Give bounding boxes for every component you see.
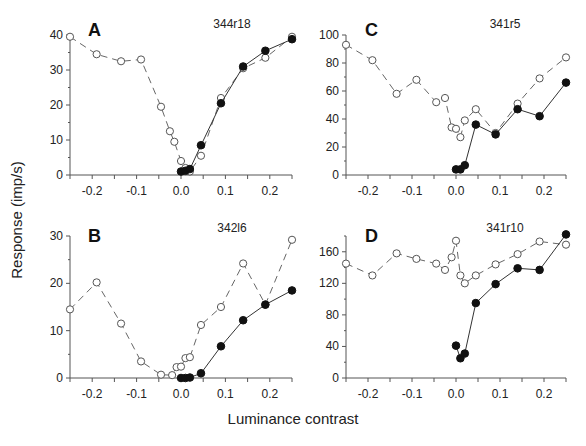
filled-circle-marker (472, 121, 480, 129)
y-tick-label: 10 (50, 133, 64, 147)
y-tick-label: 40 (326, 112, 340, 126)
open-circle-marker (197, 152, 204, 159)
panel-label: D (365, 226, 378, 246)
x-tick-label: 0.1 (492, 387, 509, 401)
x-tick-label: 0.1 (217, 184, 234, 198)
x-tick-label: -0.2 (82, 387, 103, 401)
open-circle-marker (457, 134, 464, 141)
open-circle-marker (217, 303, 224, 310)
panel-c: -0.2-0.10.00.10.2020406080100C341r5 (319, 17, 570, 198)
y-tick-label: 60 (326, 84, 340, 98)
y-tick-label: 30 (50, 63, 64, 77)
x-tick-label: 0.0 (448, 184, 465, 198)
y-tick-label: 10 (50, 324, 64, 338)
panel-label: A (88, 20, 101, 40)
open-circle-marker (514, 251, 521, 258)
open-circle-marker (369, 57, 376, 64)
open-circle-marker (452, 237, 459, 244)
open-circle-marker (433, 260, 440, 267)
filled-circle-marker (186, 165, 194, 173)
x-tick-label: -0.1 (126, 387, 147, 401)
open-circle-marker (536, 238, 543, 245)
open-circle-marker (137, 56, 144, 63)
x-tick-label: -0.1 (126, 184, 147, 198)
series-open-line (70, 240, 292, 375)
filled-circle-marker (197, 369, 205, 377)
series-open-line (346, 241, 566, 284)
x-tick-label: -0.2 (358, 184, 379, 198)
open-circle-marker (369, 272, 376, 279)
open-circle-marker (562, 54, 569, 61)
x-tick-label: 0.2 (536, 387, 553, 401)
filled-circle-marker (472, 299, 480, 307)
open-circle-marker (413, 255, 420, 262)
open-circle-marker (177, 157, 184, 164)
figure: -0.2-0.10.00.10.2010203040A344r18-0.2-0.… (0, 0, 586, 446)
open-circle-marker (288, 236, 295, 243)
open-circle-marker (562, 241, 569, 248)
filled-circle-marker (288, 35, 296, 43)
y-tick-label: 0 (56, 371, 63, 385)
open-circle-marker (457, 272, 464, 279)
filled-circle-marker (239, 316, 247, 324)
y-tick-label: 0 (332, 371, 339, 385)
x-tick-label: 0.0 (173, 184, 190, 198)
open-circle-marker (66, 33, 73, 40)
open-circle-marker (186, 354, 193, 361)
panel-title: 344r18 (213, 17, 251, 31)
y-tick-label: 20 (326, 140, 340, 154)
x-tick-label: -0.2 (358, 387, 379, 401)
x-axis-label: Luminance contrast (0, 410, 586, 427)
open-circle-marker (492, 261, 499, 268)
x-tick-label: -0.1 (402, 184, 423, 198)
filled-circle-marker (197, 141, 205, 149)
series-filled-line (181, 39, 292, 171)
x-tick-label: -0.1 (402, 387, 423, 401)
open-circle-marker (240, 260, 247, 267)
filled-circle-marker (461, 161, 469, 169)
open-circle-marker (536, 75, 543, 82)
filled-circle-marker (536, 266, 544, 274)
x-tick-label: 0.2 (536, 184, 553, 198)
filled-circle-marker (217, 99, 225, 107)
y-axis-label: Response (imp/s) (8, 161, 25, 279)
open-circle-marker (342, 260, 349, 267)
panel-a: -0.2-0.10.00.10.2010203040A344r18 (50, 17, 296, 198)
x-tick-label: 0.0 (448, 387, 465, 401)
filled-circle-marker (262, 301, 270, 309)
open-circle-marker (448, 254, 455, 261)
series-open-line (346, 45, 566, 137)
x-tick-label: -0.2 (82, 184, 103, 198)
panel-b: -0.2-0.10.00.10.20102030B342l6 (50, 221, 296, 401)
panel-title: 342l6 (217, 221, 247, 235)
y-tick-label: 160 (319, 245, 339, 259)
filled-circle-marker (262, 47, 270, 55)
open-circle-marker (166, 128, 173, 135)
figure-canvas: -0.2-0.10.00.10.2010203040A344r18-0.2-0.… (0, 0, 586, 446)
open-circle-marker (197, 321, 204, 328)
open-circle-marker (262, 54, 269, 61)
x-tick-label: 0.1 (492, 184, 509, 198)
panel-d: -0.2-0.10.00.10.204080120160D341r10 (319, 221, 570, 401)
filled-circle-marker (217, 342, 225, 350)
series-open-line (70, 37, 292, 172)
y-tick-label: 40 (326, 339, 340, 353)
open-circle-marker (472, 106, 479, 113)
y-tick-label: 30 (50, 229, 64, 243)
panel-title: 341r5 (490, 17, 521, 31)
y-tick-label: 0 (56, 168, 63, 182)
filled-circle-marker (452, 342, 460, 350)
panel-label: C (365, 20, 378, 40)
open-circle-marker (177, 363, 184, 370)
y-tick-label: 120 (319, 276, 339, 290)
open-circle-marker (171, 138, 178, 145)
y-tick-label: 40 (50, 28, 64, 42)
open-circle-marker (452, 125, 459, 132)
open-circle-marker (342, 41, 349, 48)
panel-label: B (88, 226, 101, 246)
x-tick-label: 0.0 (173, 387, 190, 401)
x-tick-label: 0.2 (261, 184, 278, 198)
x-tick-label: 0.2 (261, 387, 278, 401)
open-circle-marker (393, 90, 400, 97)
open-circle-marker (93, 279, 100, 286)
